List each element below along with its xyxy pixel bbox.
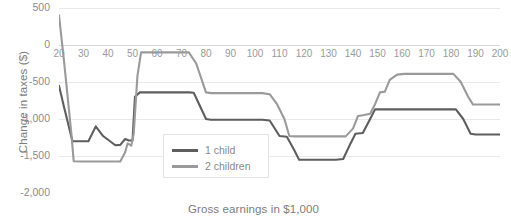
x-axis-tick-label: 40	[97, 48, 119, 59]
y-axis-tick-label: -2,000	[0, 186, 50, 198]
x-axis-tick-label: 110	[269, 48, 291, 59]
x-axis-title: Gross earnings in $1,000	[0, 203, 507, 215]
x-axis-tick-label: 20	[48, 48, 70, 59]
x-axis-tick-label: 170	[416, 48, 438, 59]
y-axis-tick-label: 0	[0, 38, 50, 50]
x-axis-tick-label: 60	[146, 48, 168, 59]
legend-item-2-children: 2 children	[172, 158, 268, 174]
x-axis-tick-label: 130	[318, 48, 340, 59]
y-axis-tick-label: -1,500	[0, 149, 50, 161]
y-axis-tick-labels: 5000-500-1,000-1,500-2,000	[0, 0, 55, 224]
legend-label-2-children: 2 children	[205, 160, 251, 172]
x-axis-tick-label: 100	[244, 48, 266, 59]
x-axis-tick-label: 190	[465, 48, 487, 59]
x-axis-tick-label: 70	[171, 48, 193, 59]
x-axis-tick-label: 160	[391, 48, 413, 59]
legend-label-1-child: 1 child	[205, 144, 235, 156]
plot-area	[59, 8, 500, 193]
x-axis-tick-label: 30	[73, 48, 95, 59]
x-axis-tick-label: 180	[440, 48, 462, 59]
x-axis-tick-label: 120	[293, 48, 315, 59]
legend-swatch-1-child	[172, 149, 198, 152]
x-axis-tick-label: 50	[122, 48, 144, 59]
x-axis-tick-label: 150	[367, 48, 389, 59]
y-axis-tick-label: -500	[0, 75, 50, 87]
legend-item-1-child: 1 child	[172, 142, 268, 158]
y-axis-tick-label: 500	[0, 1, 50, 13]
plot-svg	[59, 8, 500, 193]
legend-swatch-2-children	[172, 165, 198, 168]
x-axis-tick-label: 140	[342, 48, 364, 59]
y-axis-tick-label: -1,000	[0, 112, 50, 124]
legend: 1 child 2 children	[163, 134, 269, 178]
x-axis-tick-label: 200	[489, 48, 511, 59]
x-axis-tick-label: 90	[220, 48, 242, 59]
x-axis-tick-label: 80	[195, 48, 217, 59]
